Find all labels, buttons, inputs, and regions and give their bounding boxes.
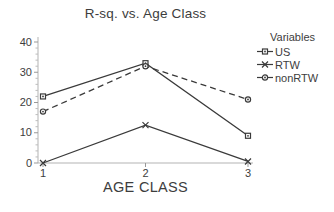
series-markers-US	[41, 61, 251, 139]
x-tick-label: 3	[245, 167, 251, 179]
us-square-marker-icon	[257, 47, 273, 56]
circle-marker	[143, 64, 148, 69]
square-marker	[263, 49, 268, 54]
legend-item-nonrtw: nonRTW	[257, 71, 333, 84]
legend-item-rtw: RTW	[257, 58, 333, 71]
circle-marker	[262, 75, 267, 80]
square-marker	[246, 133, 251, 138]
y-tick-label: 10	[20, 126, 32, 138]
y-tick-label: 40	[20, 36, 32, 48]
x-tick-label: 2	[142, 167, 148, 179]
x-tick-label: 1	[40, 167, 46, 179]
circle-marker	[245, 97, 250, 102]
legend-label-rtw: RTW	[275, 59, 300, 71]
series-markers-nonRTW	[40, 64, 250, 115]
r-squared-line-chart: R-sq. vs. Age Class 010203040123 AGE CLA…	[0, 0, 334, 212]
rtw-x-marker-icon	[257, 60, 273, 69]
y-tick-label: 30	[20, 66, 32, 78]
legend-label-us: US	[275, 46, 290, 58]
series-line-nonRTW	[43, 66, 248, 111]
circle-marker	[40, 109, 45, 114]
legend-title: Variables	[270, 31, 333, 43]
series-line-RTW	[43, 125, 248, 163]
y-tick-label: 0	[26, 157, 32, 169]
square-marker	[41, 94, 46, 99]
legend-item-us: US	[257, 45, 333, 58]
x-axis-title: AGE CLASS	[38, 179, 253, 195]
nonrtw-circle-marker-icon	[257, 73, 273, 82]
series-markers-RTW	[40, 122, 251, 166]
y-tick-label: 20	[20, 96, 32, 108]
legend: Variables US RTW nonRTW	[257, 31, 333, 84]
legend-label-nonrtw: nonRTW	[275, 72, 318, 84]
x-marker	[143, 122, 149, 128]
